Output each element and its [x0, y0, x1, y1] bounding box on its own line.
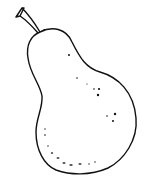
pear-drawing [0, 0, 148, 193]
pear-body [28, 29, 137, 174]
pear-stem [16, 8, 45, 33]
